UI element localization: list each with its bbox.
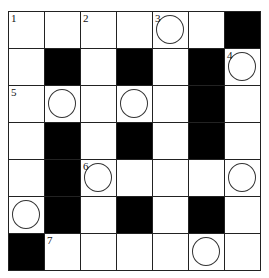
clue-number: 7 xyxy=(47,234,53,246)
grid-cell[interactable] xyxy=(45,86,81,123)
grid-cell[interactable] xyxy=(9,160,45,197)
black-cell xyxy=(189,86,225,123)
clue-number: 3 xyxy=(155,12,161,24)
grid-cell[interactable] xyxy=(81,86,117,123)
black-cell xyxy=(189,49,225,86)
grid-cell[interactable] xyxy=(81,49,117,86)
grid-cell[interactable]: 4 xyxy=(225,49,261,86)
clue-number: 1 xyxy=(11,12,17,24)
black-cell xyxy=(189,123,225,160)
black-cell xyxy=(117,197,153,234)
grid-cell[interactable] xyxy=(117,234,153,271)
grid-cell[interactable] xyxy=(153,197,189,234)
clue-number: 5 xyxy=(11,86,17,98)
grid-cell[interactable] xyxy=(153,234,189,271)
grid-cell[interactable] xyxy=(225,160,261,197)
circle-marker-icon xyxy=(12,200,40,229)
grid-cell[interactable] xyxy=(153,86,189,123)
grid-cell[interactable] xyxy=(153,49,189,86)
grid-cell[interactable]: 3 xyxy=(153,12,189,49)
grid-cell[interactable] xyxy=(9,197,45,234)
black-cell xyxy=(45,160,81,197)
grid-cell[interactable] xyxy=(225,234,261,271)
black-cell xyxy=(189,197,225,234)
black-cell xyxy=(117,49,153,86)
grid-cell[interactable] xyxy=(189,160,225,197)
grid-cell[interactable] xyxy=(81,123,117,160)
grid-cell[interactable] xyxy=(189,12,225,49)
black-cell xyxy=(117,123,153,160)
grid-cell[interactable]: 5 xyxy=(9,86,45,123)
grid-cell[interactable] xyxy=(81,234,117,271)
black-cell xyxy=(45,123,81,160)
clue-number: 2 xyxy=(83,12,89,24)
grid-cell[interactable] xyxy=(153,160,189,197)
grid-cell[interactable] xyxy=(117,12,153,49)
grid-cell[interactable] xyxy=(225,86,261,123)
grid-cell[interactable] xyxy=(9,123,45,160)
grid-cell[interactable] xyxy=(189,234,225,271)
grid-cell[interactable] xyxy=(9,49,45,86)
grid-cell[interactable]: 7 xyxy=(45,234,81,271)
circle-marker-icon xyxy=(120,89,148,118)
clue-number: 6 xyxy=(83,160,89,172)
grid-cell[interactable] xyxy=(225,123,261,160)
black-cell xyxy=(9,234,45,271)
black-cell xyxy=(225,12,261,49)
grid-cell[interactable] xyxy=(117,160,153,197)
circle-marker-icon xyxy=(48,89,76,118)
grid-cell[interactable]: 2 xyxy=(81,12,117,49)
grid-cell[interactable] xyxy=(153,123,189,160)
clue-number: 4 xyxy=(227,49,233,61)
black-cell xyxy=(45,197,81,234)
circle-marker-icon xyxy=(192,237,220,266)
grid-cell[interactable] xyxy=(225,197,261,234)
grid-cell[interactable] xyxy=(117,86,153,123)
black-cell xyxy=(45,49,81,86)
grid-cell[interactable] xyxy=(81,197,117,234)
grid-cell[interactable] xyxy=(45,12,81,49)
crossword-grid: 1234567 xyxy=(8,11,261,271)
circle-marker-icon xyxy=(228,163,256,192)
grid-cell[interactable]: 1 xyxy=(9,12,45,49)
grid-cell[interactable]: 6 xyxy=(81,160,117,197)
